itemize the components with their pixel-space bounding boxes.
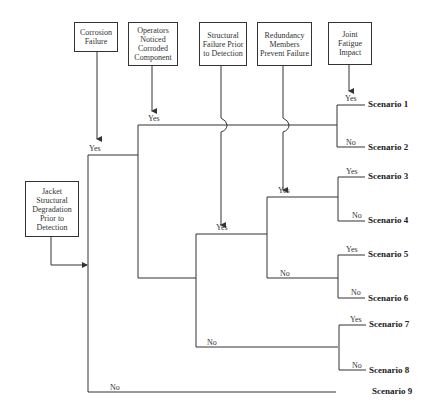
branch-label-operators-yes: Yes <box>148 115 160 123</box>
header-corrosion-failure: Corrosion Failure <box>74 22 118 52</box>
branch-label-structural-yes: Yes <box>216 224 228 232</box>
branch-label-s4-no: No <box>352 212 362 220</box>
scenario-6: Scenario 6 <box>368 294 408 303</box>
initiating-event-box: Jacket Structural Degradation Prior to D… <box>25 181 79 237</box>
branch-label-s3-yes: Yes <box>346 168 358 176</box>
scenario-1: Scenario 1 <box>368 100 408 109</box>
header-structural-failure: Structural Failure Prior to Detection <box>199 22 247 66</box>
scenario-9: Scenario 9 <box>372 387 412 396</box>
branch-label-corrosion-no: No <box>110 384 120 392</box>
header-redundancy-members: Redundancy Members Prevent Failure <box>257 22 312 66</box>
branch-label-s1-yes: Yes <box>345 95 357 103</box>
branch-label-redundancy-no: No <box>280 270 290 278</box>
scenario-2: Scenario 2 <box>368 143 408 152</box>
header-operators-noticed: Operators Noticed Corroded Component <box>128 22 178 66</box>
header-joint-fatigue: Joint Fatigue Impact <box>328 22 372 65</box>
scenario-8: Scenario 8 <box>369 366 409 375</box>
branch-label-s2-no: No <box>346 139 356 147</box>
structural-arrow <box>221 65 227 225</box>
scenario-4: Scenario 4 <box>368 216 408 225</box>
branch-label-s8-no: No <box>352 362 362 370</box>
branch-label-s5-yes: Yes <box>346 246 358 254</box>
branch-label-corrosion-yes: Yes <box>89 145 101 153</box>
branch-label-s7-yes: Yes <box>350 316 362 324</box>
scenario-7: Scenario 7 <box>369 320 409 329</box>
initiator-connector <box>51 236 87 265</box>
branch-label-redundancy-yes: Yes <box>278 187 290 195</box>
scenario-3: Scenario 3 <box>368 172 408 181</box>
redundancy-arrow <box>283 65 289 190</box>
branch-label-s6-no: No <box>351 289 361 297</box>
branch-label-structural-no: No <box>207 339 217 347</box>
scenario-5: Scenario 5 <box>368 250 408 259</box>
